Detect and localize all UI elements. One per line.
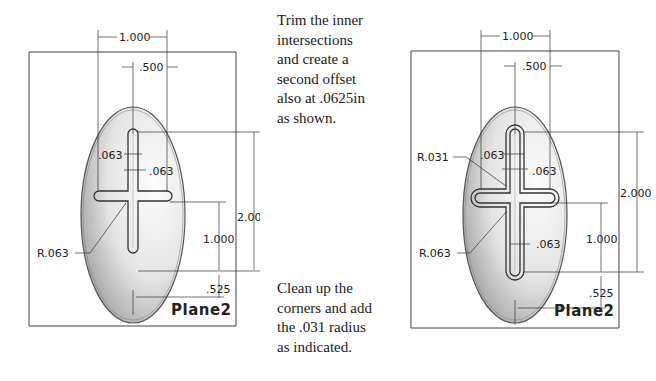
caption-top: Trim the inner intersections and create … [277,11,365,128]
caption-line: Trim the inner [277,11,365,31]
dim-height-lower: 1.000 [586,233,618,246]
dim-width-outer: 1.000 [502,30,534,43]
dim-height-lower: 1.000 [203,233,235,246]
dim-radius: R.063 [37,247,69,260]
dim-offset-a: .063 [480,149,505,162]
caption-line: second offset [277,70,365,90]
figure-right-sketch: 1.000 .500 .063 .063 .063 2.000 1.000 .5… [400,0,656,381]
dim-offset-c: .063 [536,238,561,251]
plane-label: Plane2 [554,302,615,320]
caption-line: as indicated. [277,338,372,358]
caption-line: as shown. [277,109,365,129]
dim-offset-b: .063 [532,165,557,178]
dim-width-inner: .500 [522,60,547,73]
dim-bottom-offset: .525 [206,283,231,296]
caption-line: corners and add [277,299,372,319]
caption-line: intersections [277,31,365,51]
caption-line: Clean up the [277,279,372,299]
caption-bottom: Clean up the corners and add the .031 ra… [277,279,372,357]
dim-bottom-offset: .525 [589,287,614,300]
dim-offset-a: .063 [98,149,123,162]
caption-line: and create a [277,50,365,70]
plane-label: Plane2 [171,301,232,319]
dim-width-inner: .500 [139,61,164,74]
dim-width-outer: 1.000 [119,31,151,44]
dim-radius-small: R.031 [417,151,449,164]
caption-line: the .031 radius [277,318,372,338]
figure-left-sketch: 1.000 .500 .063 .063 2.000 1.000 .525 R.… [0,0,260,381]
dim-offset-b: .063 [149,165,174,178]
caption-line: also at .0625in [277,89,365,109]
dim-radius: R.063 [419,247,451,260]
dim-height-total: 2.000 [620,187,652,200]
dim-height-total: 2.000 [237,211,260,224]
